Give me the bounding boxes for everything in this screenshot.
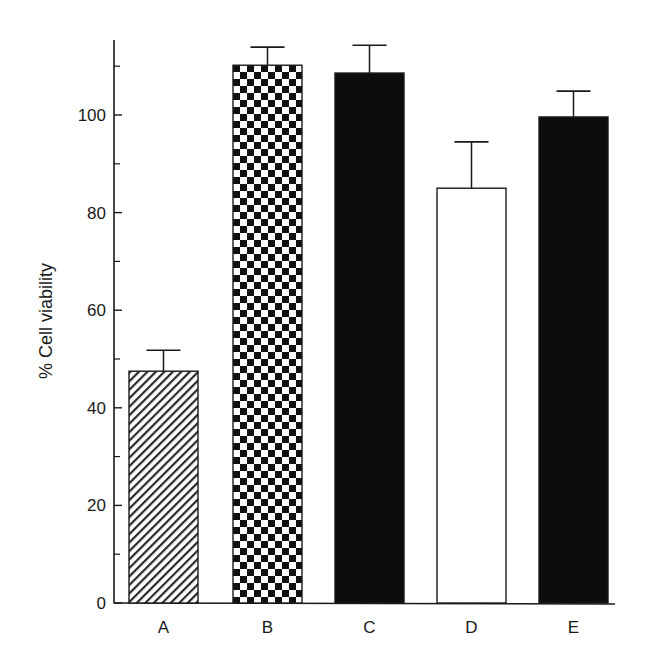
- bar-a: [129, 371, 198, 603]
- y-tick-label: 20: [87, 496, 106, 515]
- bar-b: [233, 65, 302, 603]
- y-tick-label: 40: [87, 399, 106, 418]
- y-axis: [114, 40, 122, 604]
- y-axis-title: % Cell viability: [36, 263, 56, 379]
- y-tick-label: 60: [87, 301, 106, 320]
- bars-group: [129, 65, 608, 603]
- y-tick-label: 0: [97, 594, 106, 613]
- x-tick-label: A: [158, 618, 170, 637]
- x-tick-label: C: [363, 618, 375, 637]
- bar-e: [539, 117, 608, 603]
- x-tick-label: D: [465, 618, 477, 637]
- bar-d: [437, 188, 506, 603]
- y-tick-labels: 020406080100: [78, 106, 106, 613]
- bar-c: [335, 73, 404, 603]
- y-tick-label: 100: [78, 106, 106, 125]
- x-tick-labels: ABCDE: [158, 618, 579, 637]
- bar-chart: ABCDE 020406080100 % Cell viability: [0, 0, 649, 666]
- x-tick-label: B: [262, 618, 273, 637]
- x-tick-label: E: [568, 618, 579, 637]
- y-tick-label: 80: [87, 204, 106, 223]
